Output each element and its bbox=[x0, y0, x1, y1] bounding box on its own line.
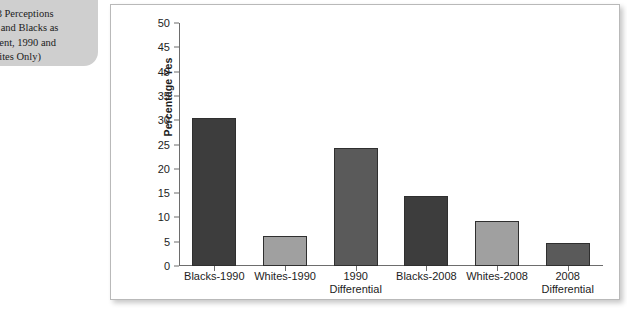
chart-panel: Percentage Yes 50454035302520151050 Blac… bbox=[110, 4, 620, 300]
bar bbox=[263, 236, 307, 266]
bar-slot bbox=[462, 23, 533, 266]
plot-wrapper: Percentage Yes 50454035302520151050 Blac… bbox=[111, 5, 619, 299]
bar bbox=[404, 196, 448, 266]
bar bbox=[334, 148, 378, 266]
bar-slot bbox=[532, 23, 603, 266]
x-axis-tick-label: 1990 Differential bbox=[320, 270, 391, 296]
bar bbox=[475, 221, 519, 266]
figure-caption-box: .3 Perceptions s and Blacks as gent, 199… bbox=[0, 0, 98, 66]
bar-slot bbox=[320, 23, 391, 266]
bar bbox=[192, 118, 236, 266]
x-axis-tick-label: Blacks-1990 bbox=[179, 270, 250, 296]
bar-slot bbox=[250, 23, 321, 266]
bar-slot bbox=[391, 23, 462, 266]
bar bbox=[546, 243, 590, 266]
x-axis-tick-label: Blacks-2008 bbox=[391, 270, 462, 296]
x-axis-tick-label: Whites-2008 bbox=[462, 270, 533, 296]
x-axis-tick-label: Whites-1990 bbox=[250, 270, 321, 296]
figure-caption-text: .3 Perceptions s and Blacks as gent, 199… bbox=[0, 7, 92, 64]
x-axis-labels: Blacks-1990Whites-19901990 DifferentialB… bbox=[179, 270, 603, 296]
x-axis-tick-label: 2008 Differential bbox=[532, 270, 603, 296]
bars-layer bbox=[179, 23, 603, 266]
bar-slot bbox=[179, 23, 250, 266]
plot-area: 50454035302520151050 bbox=[179, 23, 603, 266]
